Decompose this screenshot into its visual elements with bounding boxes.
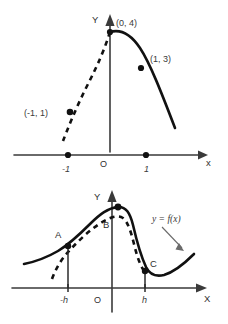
math-figure-panel: x Y O (0, 4) (1, 3) (-1, 1) -1 1 X (0, 0, 228, 324)
upper-y-axis-label: Y (92, 14, 99, 25)
upper-point-1-3-marker (138, 65, 144, 71)
upper-solid-branch (110, 31, 175, 128)
upper-xaxis-marker-neg1 (65, 152, 71, 158)
upper-point-neg1-1-marker (67, 109, 74, 116)
upper-vertex-marker (107, 29, 113, 35)
lower-point-A-marker (65, 243, 71, 249)
upper-xtick-label-neg1: -1 (62, 164, 70, 174)
lower-label-C: C (150, 258, 157, 269)
upper-x-axis-label: x (206, 157, 211, 168)
upper-label-point-1-3: (1, 3) (150, 54, 171, 64)
lower-function-label: y = f(x) (151, 214, 181, 225)
lower-point-C-marker (142, 268, 148, 274)
upper-label-point-neg1-1: (-1, 1) (24, 108, 48, 118)
upper-label-point-0-4: (0, 4) (116, 18, 137, 28)
upper-xaxis-marker-1 (143, 152, 149, 158)
lower-label-B: B (103, 219, 109, 230)
lower-xtick-label-neg-h: -h (60, 295, 68, 305)
lower-xtick-label-h: h (142, 295, 147, 305)
lower-origin-label: O (94, 295, 101, 305)
lower-x-axis-label: X (204, 293, 211, 304)
upper-xtick-label-1: 1 (144, 164, 149, 174)
lower-y-axis-arrowhead (107, 190, 116, 202)
lower-label-A: A (55, 229, 62, 240)
upper-y-axis-arrowhead (105, 14, 114, 26)
upper-origin-label: O (100, 159, 107, 169)
lower-x-axis-arrowhead (196, 284, 207, 293)
upper-dashed-branch (63, 32, 110, 141)
upper-parabola-chart: x Y O (0, 4) (1, 3) (-1, 1) -1 1 (0, 0, 228, 180)
lower-callout-pointer-head (176, 243, 185, 251)
lower-point-B-marker (115, 204, 122, 211)
lower-y-axis-label: Y (94, 191, 101, 202)
lower-fx-chart: X Y O A B C y = f(x) -h h (0, 180, 228, 324)
